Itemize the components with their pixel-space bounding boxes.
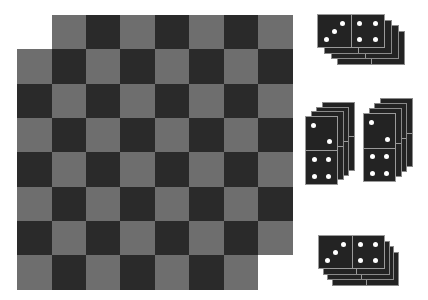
- dark-square[interactable]: [155, 152, 189, 187]
- dark-square[interactable]: [120, 118, 155, 152]
- domino-tile-front[interactable]: [305, 116, 338, 185]
- light-square[interactable]: [86, 49, 120, 84]
- light-square[interactable]: [52, 221, 86, 255]
- domino-tile-front[interactable]: [317, 14, 385, 48]
- pip-dot: [333, 250, 338, 255]
- light-square[interactable]: [155, 49, 189, 84]
- pip-dot: [384, 154, 389, 159]
- light-square[interactable]: [17, 255, 52, 290]
- dark-square[interactable]: [52, 49, 86, 84]
- dark-square[interactable]: [224, 152, 258, 187]
- pip-dot: [312, 157, 317, 162]
- pip-dot: [358, 258, 363, 263]
- dark-square[interactable]: [258, 49, 293, 84]
- dark-square[interactable]: [189, 255, 224, 290]
- light-square[interactable]: [17, 118, 52, 152]
- domino-tile-front[interactable]: [363, 113, 396, 182]
- light-square[interactable]: [155, 187, 189, 221]
- light-square[interactable]: [120, 15, 155, 49]
- light-square[interactable]: [52, 15, 86, 49]
- light-square[interactable]: [86, 187, 120, 221]
- light-square[interactable]: [224, 118, 258, 152]
- light-square[interactable]: [189, 221, 224, 255]
- pip-dot: [327, 139, 332, 144]
- light-square[interactable]: [189, 84, 224, 118]
- dark-square[interactable]: [155, 84, 189, 118]
- dark-square[interactable]: [224, 15, 258, 49]
- pip-dot: [373, 37, 378, 42]
- domino-divider: [306, 150, 337, 151]
- pip-dot: [385, 137, 390, 142]
- dark-square[interactable]: [17, 221, 52, 255]
- light-square[interactable]: [258, 221, 293, 255]
- pip-dot: [370, 171, 375, 176]
- light-square[interactable]: [52, 84, 86, 118]
- light-square[interactable]: [52, 152, 86, 187]
- dark-square[interactable]: [17, 152, 52, 187]
- light-square[interactable]: [258, 15, 293, 49]
- dark-square[interactable]: [86, 152, 120, 187]
- dark-square[interactable]: [224, 84, 258, 118]
- dark-square[interactable]: [155, 15, 189, 49]
- light-square[interactable]: [189, 15, 224, 49]
- dark-square[interactable]: [189, 118, 224, 152]
- dark-square[interactable]: [86, 221, 120, 255]
- pip-dot: [357, 37, 362, 42]
- pip-dot: [358, 242, 363, 247]
- pip-dot: [373, 242, 378, 247]
- pip-dot: [370, 154, 375, 159]
- light-square[interactable]: [120, 152, 155, 187]
- light-square[interactable]: [224, 255, 258, 290]
- pip-dot: [324, 37, 329, 42]
- dark-square[interactable]: [155, 221, 189, 255]
- dark-square[interactable]: [189, 49, 224, 84]
- dark-square[interactable]: [258, 118, 293, 152]
- pip-dot: [357, 21, 362, 26]
- pip-dot: [312, 174, 317, 179]
- light-square[interactable]: [258, 152, 293, 187]
- pip-dot: [373, 258, 378, 263]
- light-square[interactable]: [224, 49, 258, 84]
- light-square[interactable]: [189, 152, 224, 187]
- pip-dot: [326, 174, 331, 179]
- light-square[interactable]: [120, 84, 155, 118]
- domino-tile-front[interactable]: [318, 235, 385, 269]
- pip-dot: [384, 171, 389, 176]
- dark-square[interactable]: [120, 255, 155, 290]
- light-square[interactable]: [258, 84, 293, 118]
- dark-square[interactable]: [189, 187, 224, 221]
- pip-dot: [311, 123, 316, 128]
- light-square[interactable]: [155, 118, 189, 152]
- light-square[interactable]: [224, 187, 258, 221]
- dark-square[interactable]: [258, 187, 293, 221]
- light-square[interactable]: [155, 255, 189, 290]
- light-square[interactable]: [120, 221, 155, 255]
- game-scene: [0, 0, 428, 300]
- dark-square[interactable]: [86, 15, 120, 49]
- light-square[interactable]: [86, 255, 120, 290]
- light-square[interactable]: [17, 187, 52, 221]
- pip-dot: [332, 29, 337, 34]
- dark-square[interactable]: [52, 255, 86, 290]
- dark-square[interactable]: [52, 187, 86, 221]
- pip-dot: [369, 120, 374, 125]
- dark-square[interactable]: [17, 84, 52, 118]
- domino-divider: [351, 15, 352, 47]
- domino-divider: [364, 148, 395, 149]
- light-square[interactable]: [86, 118, 120, 152]
- dark-square[interactable]: [120, 49, 155, 84]
- pip-dot: [341, 242, 346, 247]
- dark-square[interactable]: [52, 118, 86, 152]
- domino-divider: [352, 236, 353, 268]
- pip-dot: [340, 21, 345, 26]
- pip-dot: [373, 21, 378, 26]
- dark-square[interactable]: [120, 187, 155, 221]
- dark-square[interactable]: [86, 84, 120, 118]
- light-square[interactable]: [17, 49, 52, 84]
- pip-dot: [325, 258, 330, 263]
- pip-dot: [326, 157, 331, 162]
- dark-square[interactable]: [224, 221, 258, 255]
